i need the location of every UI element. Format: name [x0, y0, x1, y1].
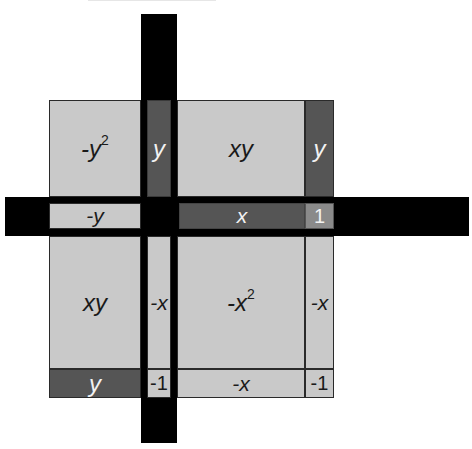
tile-y-bottom: y — [49, 369, 141, 398]
tile-y-top-outer: y — [305, 100, 334, 197]
tile-neg-y-squared: -y2 — [49, 100, 141, 197]
top-edge-line — [88, 0, 216, 1]
tile-neg-x-inner: -x — [147, 236, 171, 369]
tile-neg-x-outer: -x — [305, 236, 334, 369]
tile-neg-y-strip: -y — [49, 203, 141, 229]
tile-unit-positive: 1 — [305, 203, 334, 229]
tile-y-top-inner: y — [147, 100, 171, 197]
tile-neg-x-squared: -x2 — [177, 236, 305, 369]
tile-neg-x-bottom: -x — [177, 369, 305, 398]
tile-neg-one-outer: -1 — [305, 369, 334, 398]
tile-x-strip: x — [179, 203, 305, 229]
tile-xy-top: xy — [177, 100, 305, 197]
tile-xy-middle: xy — [49, 236, 141, 369]
tile-neg-one-inner: -1 — [147, 369, 171, 398]
